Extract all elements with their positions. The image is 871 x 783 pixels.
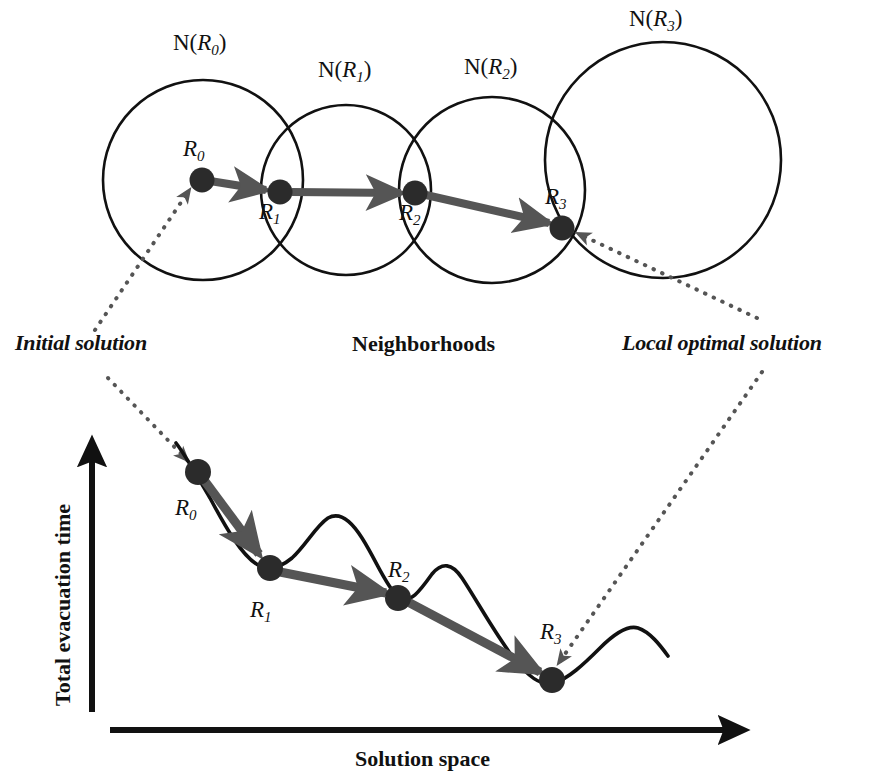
chart-point-label-R1-var: R: [250, 597, 264, 622]
chart-point-label-R2-var: R: [388, 557, 402, 582]
neighborhood-label-N1-var: R: [342, 57, 356, 82]
chart-point-label-R3: R3: [540, 620, 562, 647]
neighborhood-label-N2: N(R2): [464, 55, 518, 82]
neighborhood-label-N2-var: R: [488, 54, 502, 79]
top-solution-dot-R3: [550, 216, 575, 241]
top-point-label-R0: R0: [183, 137, 205, 164]
chart-point-label-R1-sub: 1: [264, 609, 272, 625]
neighborhood-label-N1-sub: 1: [356, 69, 364, 85]
connector-initial-solution-to-top-R0: [95, 189, 190, 330]
chart-point-label-R3-sub: 3: [554, 631, 562, 647]
diagram-page: N(R0) N(R1) N(R2) N(R3) R0 R1 R2 R3 Init…: [0, 0, 871, 783]
chart-point-label-R2-sub: 2: [402, 569, 410, 585]
neighborhood-label-N2-suffix: ): [510, 54, 518, 79]
x-axis-title: Solution space: [355, 748, 490, 770]
chart-point-label-R2: R2: [388, 558, 410, 585]
neighborhood-label-N3-prefix: N(: [629, 6, 653, 31]
connector-local-optimal-to-top-R3: [577, 233, 757, 318]
dotted-connectors-group: [95, 189, 762, 664]
neighborhood-label-N1-suffix: ): [364, 57, 372, 82]
chart-solution-dot-R0: [185, 459, 211, 485]
neighborhood-label-N0-sub: 0: [211, 42, 219, 58]
top-solution-dots-group: [190, 168, 575, 241]
descent-arrow-R1-to-R2: [280, 572, 386, 593]
top-point-label-R2-var: R: [399, 200, 413, 225]
top-arrow-R1-to-R2: [292, 192, 401, 193]
neighborhood-label-N0: N(R0): [173, 31, 227, 58]
neighborhood-label-N3: N(R3): [629, 7, 683, 34]
neighborhood-label-N3-sub: 3: [667, 18, 675, 34]
top-point-label-R3-var: R: [545, 184, 559, 209]
connector-local-optimal-to-chart-R3: [558, 372, 762, 664]
top-point-label-R1: R1: [259, 200, 281, 227]
neighborhood-label-N1-prefix: N(: [318, 57, 342, 82]
caption-local-optimal-solution: Local optimal solution: [622, 332, 822, 354]
top-arrow-R0-to-R1: [210, 181, 266, 190]
neighborhood-label-N0-suffix: ): [219, 30, 227, 55]
top-point-label-R0-sub: 0: [197, 148, 205, 164]
connector-initial-solution-to-chart-R0: [108, 378, 188, 461]
solution-landscape-curve-group: [176, 443, 668, 684]
neighborhood-label-N1: N(R1): [318, 58, 372, 85]
descent-arrow-R0-to-R1: [204, 480, 259, 554]
y-axis-title: Total evacuation time: [52, 504, 74, 706]
neighborhood-label-N0-prefix: N(: [173, 30, 197, 55]
chart-point-label-R0: R0: [175, 496, 197, 523]
neighborhood-label-N2-sub: 2: [502, 66, 510, 82]
top-point-label-R2: R2: [399, 201, 421, 228]
chart-axes-group: [92, 441, 744, 730]
top-point-label-R1-sub: 1: [273, 211, 281, 227]
neighborhood-label-N3-var: R: [653, 6, 667, 31]
caption-neighborhoods: Neighborhoods: [352, 333, 495, 355]
chart-point-label-R3-var: R: [540, 619, 554, 644]
top-solution-dot-R0: [190, 168, 215, 193]
landscape-curve: [176, 443, 668, 684]
top-point-label-R3-sub: 3: [559, 196, 567, 212]
chart-solution-dot-R1: [257, 555, 283, 581]
neighborhood-label-N3-suffix: ): [675, 6, 683, 31]
caption-initial-solution: Initial solution: [15, 332, 147, 354]
top-point-label-R2-sub: 2: [413, 212, 421, 228]
chart-solution-dot-R3: [539, 667, 565, 693]
descent-arrows-group: [204, 480, 540, 672]
diagram-canvas: [0, 0, 871, 783]
neighborhood-label-N0-var: R: [197, 30, 211, 55]
top-arrow-R2-to-R3: [426, 195, 549, 223]
chart-point-label-R0-sub: 0: [189, 507, 197, 523]
top-point-label-R1-var: R: [259, 199, 273, 224]
chart-point-label-R1: R1: [250, 598, 272, 625]
top-point-label-R0-var: R: [183, 136, 197, 161]
neighborhood-label-N2-prefix: N(: [464, 54, 488, 79]
chart-point-label-R0-var: R: [175, 495, 189, 520]
top-point-label-R3: R3: [545, 185, 567, 212]
descent-arrow-R2-to-R3: [408, 602, 540, 672]
chart-solution-dot-R2: [385, 585, 411, 611]
